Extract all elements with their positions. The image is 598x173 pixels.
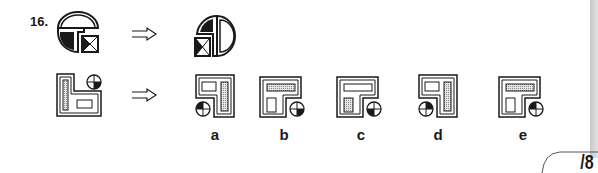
question-number: 16. <box>30 14 48 29</box>
arrow-icon <box>131 88 157 102</box>
option-label[interactable]: d <box>428 126 448 143</box>
option-b-figure[interactable] <box>259 76 307 118</box>
test-figure <box>56 73 104 117</box>
example-source-figure <box>54 12 104 58</box>
page-edge <box>590 0 598 158</box>
option-d-figure[interactable] <box>418 74 458 118</box>
example-target-figure <box>193 12 239 60</box>
option-label[interactable]: b <box>274 126 294 143</box>
option-c-figure[interactable] <box>336 76 384 118</box>
option-e-figure[interactable] <box>498 76 546 118</box>
option-label[interactable]: e <box>513 126 533 143</box>
option-label[interactable]: a <box>205 126 225 143</box>
option-a-figure[interactable] <box>195 74 235 118</box>
option-label[interactable]: c <box>351 126 371 143</box>
arrow-icon <box>131 27 157 41</box>
score-label: /8 <box>581 151 594 173</box>
